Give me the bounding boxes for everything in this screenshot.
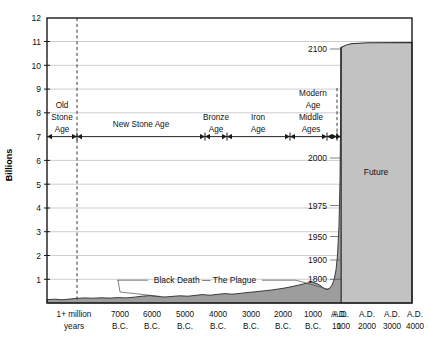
y-tick-7: 7 [36, 132, 41, 142]
year-callouts: 1800 1900 1950 1975 2000 2100 [308, 44, 341, 284]
x-tick-9-line2: 1000 [332, 322, 351, 331]
era-labels: Old Stone Age New Stone Age Bronze Age I… [51, 89, 327, 134]
x-tick-6-line2: B.C. [275, 322, 291, 331]
x-tick-9-line1: A.D. [333, 310, 349, 319]
era-label-middle-ages-line2: Ages [302, 125, 321, 134]
population-growth-chart: Old Stone Age New Stone Age Bronze Age I… [0, 0, 431, 341]
x-tick-11-line2: 3000 [383, 322, 402, 331]
x-tick-7-line2: B.C. [305, 322, 321, 331]
x-tick-2-line2: B.C. [144, 322, 160, 331]
future-region-label: Future [364, 167, 389, 177]
x-tick-12-line1: A.D. [407, 310, 423, 319]
x-tick-5-line1: 3000 [242, 310, 261, 319]
x-tick-12-line2: 4000 [406, 322, 425, 331]
era-label-old-stone-age-line2: Stone [51, 113, 73, 122]
y-tick-3: 3 [36, 227, 41, 237]
x-tick-1-line2: B.C. [112, 322, 128, 331]
era-label-old-stone-age-line1: Old [56, 101, 69, 110]
y-tick-1: 1 [36, 275, 41, 285]
era-label-bronze-age-line2: Age [209, 125, 224, 134]
era-label-middle-ages-line1: Middle [299, 113, 324, 122]
era-label-bronze-age-line1: Bronze [203, 113, 229, 122]
y-axis-title: Billions [4, 149, 14, 182]
era-label-iron-age-line1: Iron [251, 113, 266, 122]
y-tick-2: 2 [36, 251, 41, 261]
x-tick-2-line1: 6000 [143, 310, 162, 319]
y-tick-10: 10 [32, 61, 42, 71]
x-tick-11-line1: A.D. [384, 310, 400, 319]
x-tick-1-line1: 7000 [111, 310, 130, 319]
callout-2000: 2000 [308, 153, 327, 163]
callout-1975: 1975 [308, 201, 327, 211]
era-label-new-stone-age: New Stone Age [113, 120, 170, 129]
x-axis-labels-right: A.D. 2000 A.D. 3000 A.D. 4000 [358, 310, 425, 331]
annotation-black-death-label: Black Death — The Plague [154, 275, 257, 285]
x-tick-3-line1: 5000 [176, 310, 195, 319]
y-tick-11: 11 [32, 37, 41, 47]
x-tick-3-line2: B.C. [177, 322, 193, 331]
y-tick-8: 8 [36, 108, 41, 118]
x-tick-10-line1: A.D. [359, 310, 375, 319]
y-tick-4: 4 [36, 203, 41, 213]
era-label-modern-age-line1: Modern [299, 89, 327, 98]
population-curve [47, 48, 341, 304]
x-tick-10-line2: 2000 [358, 322, 377, 331]
x-tick-4-line2: B.C. [210, 322, 226, 331]
y-tick-9: 9 [36, 84, 41, 94]
x-tick-0-line1: 1+ million [57, 310, 92, 319]
y-tick-12: 12 [32, 13, 42, 23]
x-tick-5-line2: B.C. [243, 322, 259, 331]
x-axis-remaining: A.D. 1000 [332, 310, 351, 331]
callout-1900: 1900 [308, 255, 327, 265]
era-label-modern-age-line2: Age [306, 101, 321, 110]
x-tick-4-line1: 4000 [209, 310, 228, 319]
chart-canvas: Old Stone Age New Stone Age Bronze Age I… [0, 0, 431, 341]
callout-2100: 2100 [308, 44, 327, 54]
callout-1800: 1800 [308, 274, 327, 284]
x-tick-7-line1: 1000 [304, 310, 323, 319]
y-tick-6: 6 [36, 156, 41, 166]
x-axis: 1+ million years 7000 B.C. 6000 B.C. 500… [57, 310, 347, 331]
x-tick-6-line1: 2000 [274, 310, 293, 319]
era-label-iron-age-line2: Age [251, 125, 266, 134]
y-tick-5: 5 [36, 180, 41, 190]
x-tick-0-line2: years [64, 322, 84, 331]
callout-1950: 1950 [308, 232, 327, 242]
era-label-old-stone-age-line3: Age [55, 125, 70, 134]
era-bracket-axis [47, 133, 341, 141]
